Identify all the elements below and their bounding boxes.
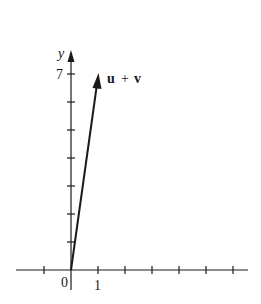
vector-label-u: u <box>107 71 115 86</box>
vector-label-v: v <box>134 71 141 86</box>
vector-diagram: y 7 0 1 u + v <box>0 0 261 304</box>
vector-label-plus: + <box>121 71 129 86</box>
vector-arrowhead-icon <box>93 73 102 89</box>
origin-label: 0 <box>61 275 68 290</box>
y-axis-label: y <box>56 46 65 61</box>
x-tick-label-1: 1 <box>94 278 101 293</box>
y-axis-arrow-icon <box>68 50 75 62</box>
vector-u-plus-v <box>71 84 97 270</box>
y-tick-label-7: 7 <box>56 67 63 82</box>
